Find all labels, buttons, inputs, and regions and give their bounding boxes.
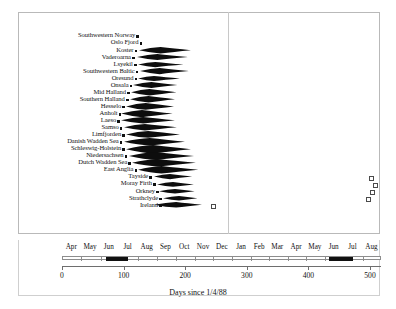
late-record-marker — [370, 190, 375, 195]
density-kite — [154, 173, 192, 180]
month-tick — [325, 257, 326, 261]
axis-tick — [124, 266, 125, 270]
month-label: Jul — [123, 243, 131, 252]
month-label: Jun — [329, 243, 339, 252]
onset-marker — [127, 92, 130, 95]
numeric-axis: 0100200300400500 — [0, 266, 396, 286]
month-label: Aug — [140, 243, 152, 252]
x-axis-title: Days since 1/4/88 — [0, 288, 396, 298]
month-label: Mar — [271, 243, 283, 252]
month-label: Jun — [104, 243, 114, 252]
month-tick — [288, 257, 289, 261]
axis-tick — [247, 266, 248, 270]
axis-tick — [62, 266, 63, 270]
month-tick — [269, 257, 270, 261]
onset-marker — [135, 50, 138, 53]
axis-tick-label: 300 — [241, 271, 252, 280]
axis-tick-label: 500 — [364, 271, 375, 280]
onset-marker — [159, 198, 162, 201]
month-tick — [138, 257, 139, 261]
month-label: Aug — [365, 243, 377, 252]
onset-marker — [132, 57, 135, 60]
peak-highlight-block — [106, 257, 128, 260]
month-label: May — [83, 243, 96, 252]
month-label: Nov — [197, 243, 209, 252]
density-kite — [157, 181, 194, 188]
density-kite — [154, 201, 202, 209]
month-label: Apr — [290, 243, 301, 252]
onset-marker — [134, 64, 137, 67]
month-label: Apr — [66, 243, 77, 252]
month-label: Jan — [236, 243, 246, 252]
axis-tick-label: 400 — [303, 271, 314, 280]
axis-tick-label: 0 — [60, 271, 64, 280]
year-boundary-line — [228, 12, 229, 234]
axis-tick — [370, 266, 371, 270]
month-label-strip: AprMayJunJulAugSepOctNovDecJanFebMarAprM… — [18, 243, 380, 254]
month-label: Feb — [254, 243, 265, 252]
late-record-marker — [369, 176, 374, 181]
late-record-marker — [366, 197, 371, 202]
month-tick — [195, 257, 196, 261]
month-scale-bar — [62, 256, 381, 260]
month-label: Oct — [179, 243, 189, 252]
onset-marker — [135, 78, 138, 81]
month-label: Sep — [160, 243, 171, 252]
late-record-marker — [211, 204, 216, 209]
onset-marker — [140, 42, 143, 45]
density-kite — [159, 188, 195, 194]
onset-marker — [153, 183, 156, 186]
figure-canvas: Southwestern NorwayOslo FjordKosterVader… — [0, 0, 396, 309]
month-tick — [251, 257, 252, 261]
month-tick — [176, 257, 177, 261]
month-tick — [363, 257, 364, 261]
axis-tick — [308, 266, 309, 270]
month-label: Jul — [348, 243, 356, 252]
onset-marker — [130, 85, 133, 88]
axis-tick — [185, 266, 186, 270]
onset-marker — [136, 71, 139, 74]
month-tick — [232, 257, 233, 261]
peak-highlight-block — [329, 257, 352, 260]
axis-tick-label: 200 — [179, 271, 190, 280]
month-tick — [81, 257, 82, 261]
month-tick — [306, 257, 307, 261]
onset-marker — [126, 99, 129, 102]
month-tick — [157, 257, 158, 261]
density-kite — [163, 195, 197, 201]
axis-tick-label: 100 — [118, 271, 129, 280]
month-tick — [101, 257, 102, 261]
month-tick — [213, 257, 214, 261]
month-label: Dec — [216, 243, 228, 252]
late-record-marker — [373, 183, 378, 188]
month-label: May — [308, 243, 321, 252]
axis-line — [62, 266, 381, 267]
